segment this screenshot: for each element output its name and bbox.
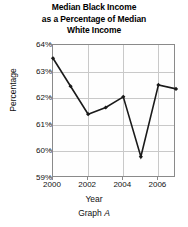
x-axis-tick-label: 2004 [113, 180, 131, 189]
x-axis-tick-label: 2000 [43, 180, 61, 189]
chart-title: Median Black Income as a Percentage of M… [0, 2, 188, 37]
data-point-marker [156, 83, 160, 87]
x-axis-tick-labels: 2000200220042006 [52, 180, 175, 194]
plot-area [52, 44, 175, 177]
x-axis-tick-label: 2006 [149, 180, 167, 189]
y-axis-tick-labels: 59%60%61%62%63%64% [30, 44, 52, 177]
x-axis-title: Year [0, 194, 188, 204]
chart-title-line-2: as a Percentage of Median [0, 14, 188, 26]
y-tick-mark [49, 177, 52, 178]
chart-figure: Median Black Income as a Percentage of M… [0, 0, 188, 227]
caption-prefix: Graph [78, 208, 102, 218]
chart-title-line-3: White Income [0, 25, 188, 37]
y-tick-mark [49, 150, 52, 151]
data-point-marker [139, 155, 143, 159]
chart-title-line-1: Median Black Income [0, 2, 188, 14]
y-tick-mark [49, 44, 52, 45]
x-axis-tick-label: 2002 [78, 180, 96, 189]
y-tick-mark [49, 71, 52, 72]
y-tick-mark [49, 124, 52, 125]
y-axis-title: Percentage [8, 55, 18, 125]
y-tick-mark [49, 97, 52, 98]
figure-caption: Graph A [0, 208, 188, 218]
caption-id: A [104, 208, 110, 218]
data-series-line [53, 45, 176, 178]
data-point-marker [174, 87, 178, 91]
